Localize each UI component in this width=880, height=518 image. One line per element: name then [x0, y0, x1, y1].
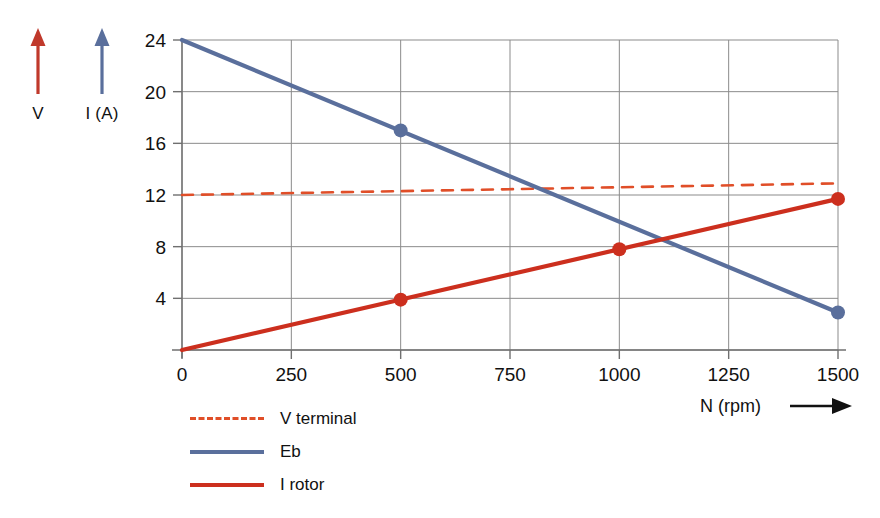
legend-swatch-i-rotor: [190, 483, 264, 487]
data-point-i-rotor: [394, 293, 408, 307]
y-tick-label: 12: [145, 185, 166, 206]
legend-item-eb: Eb: [190, 435, 490, 468]
x-tick-label: 750: [494, 364, 526, 385]
data-point-eb: [394, 123, 408, 137]
chart-legend: V terminalEbI rotor: [190, 402, 490, 501]
x-tick-label: 1500: [817, 364, 859, 385]
legend-swatch-eb: [190, 450, 264, 454]
y-tick-label: 20: [145, 82, 166, 103]
legend-item-v-terminal: V terminal: [190, 402, 490, 435]
x-tick-label: 0: [177, 364, 188, 385]
legend-swatch-v-terminal: [190, 417, 264, 420]
right-arrow-icon-head: [832, 398, 852, 414]
y-tick-label: 16: [145, 133, 166, 154]
legend-label: I rotor: [280, 475, 324, 495]
data-point-eb: [831, 306, 845, 320]
data-point-i-rotor: [612, 242, 626, 256]
x-axis-title: N (rpm): [700, 396, 761, 416]
legend-label: Eb: [280, 442, 301, 462]
legend-item-i-rotor: I rotor: [190, 468, 490, 501]
x-tick-label: 500: [385, 364, 417, 385]
y-tick-label: 4: [155, 288, 166, 309]
data-point-i-rotor: [831, 192, 845, 206]
y-tick-label: 24: [145, 30, 167, 51]
x-tick-label: 1250: [708, 364, 750, 385]
y-tick-label: 8: [155, 237, 166, 258]
legend-label: V terminal: [280, 409, 357, 429]
x-tick-label: 1000: [598, 364, 640, 385]
x-tick-label: 250: [275, 364, 307, 385]
